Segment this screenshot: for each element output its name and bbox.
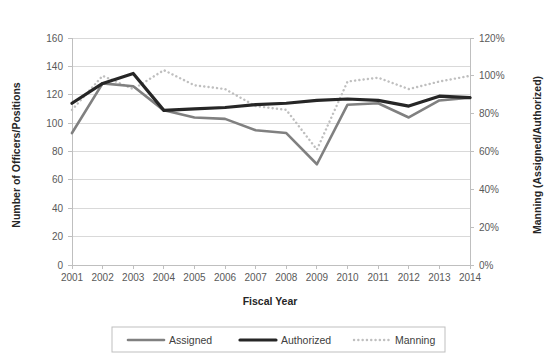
x-axis-title: Fiscal Year xyxy=(243,295,298,307)
series-line-manning xyxy=(72,70,470,149)
left-tick-label: 140 xyxy=(46,61,63,72)
series-line-authorized xyxy=(72,73,470,110)
left-tick-label: 20 xyxy=(52,231,64,242)
series-line-assigned xyxy=(72,83,470,164)
x-tick-label: 2012 xyxy=(398,272,421,283)
right-tick-label: 80% xyxy=(479,108,499,119)
left-tick-label: 160 xyxy=(46,33,63,44)
right-axis-tick-labels: 0%20%40%60%80%100%120% xyxy=(479,33,505,271)
left-tick-label: 80 xyxy=(52,146,64,157)
left-axis-tick-labels: 020406080100120140160 xyxy=(46,33,63,271)
right-tick-label: 100% xyxy=(479,70,505,81)
x-tick-label: 2014 xyxy=(459,272,482,283)
x-tick-label: 2008 xyxy=(275,272,298,283)
chart-title xyxy=(0,0,557,3)
right-tick-label: 20% xyxy=(479,222,499,233)
left-tick-label: 100 xyxy=(46,118,63,129)
x-axis-tick-labels: 2001200220032004200520062007200820092010… xyxy=(61,272,482,283)
x-tick-label: 2002 xyxy=(91,272,114,283)
legend-label-manning: Manning xyxy=(395,334,435,346)
right-axis-ticks xyxy=(470,38,474,265)
x-tick-label: 2013 xyxy=(428,272,451,283)
x-tick-label: 2001 xyxy=(61,272,84,283)
x-tick-label: 2004 xyxy=(153,272,176,283)
x-tick-label: 2010 xyxy=(336,272,359,283)
x-tick-label: 2007 xyxy=(245,272,268,283)
right-tick-label: 0% xyxy=(479,260,494,271)
left-tick-label: 0 xyxy=(57,260,63,271)
left-tick-label: 60 xyxy=(52,174,64,185)
x-axis-ticks xyxy=(72,265,470,269)
right-tick-label: 60% xyxy=(479,146,499,157)
legend-label-authorized: Authorized xyxy=(281,334,331,346)
right-tick-label: 120% xyxy=(479,33,505,44)
x-tick-label: 2003 xyxy=(122,272,145,283)
x-tick-label: 2005 xyxy=(183,272,206,283)
line-chart: 020406080100120140160 0%20%40%60%80%100%… xyxy=(0,0,557,356)
legend-label-assigned: Assigned xyxy=(169,334,212,346)
chart-container: 020406080100120140160 0%20%40%60%80%100%… xyxy=(0,0,557,356)
x-tick-label: 2011 xyxy=(367,272,389,283)
left-axis-ticks xyxy=(68,38,72,265)
series-layer xyxy=(72,70,470,164)
x-tick-label: 2006 xyxy=(214,272,237,283)
right-tick-label: 40% xyxy=(479,184,499,195)
gridlines xyxy=(72,38,470,265)
left-tick-label: 120 xyxy=(46,89,63,100)
left-axis-title: Number of Officers/Positions xyxy=(10,82,22,227)
left-tick-label: 40 xyxy=(52,203,64,214)
x-tick-label: 2009 xyxy=(306,272,329,283)
chart-legend: AssignedAuthorizedManning xyxy=(112,327,445,352)
right-axis-title: Manning (Assigned/Authorized) xyxy=(531,76,543,234)
